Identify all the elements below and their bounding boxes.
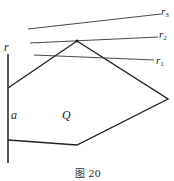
ray-r3 <box>28 14 161 29</box>
ray-r2 <box>30 37 158 43</box>
region-q-boundary <box>8 41 168 145</box>
label-r: r <box>4 40 9 55</box>
label-r2-sub: 2 <box>163 34 167 42</box>
figure-20: r a Q r3 r2 r1 图 20 <box>0 0 174 181</box>
figure-caption: 图 20 <box>75 165 101 180</box>
label-r3: r3 <box>161 5 169 19</box>
label-r1: r1 <box>156 54 164 68</box>
label-q: Q <box>62 108 71 123</box>
apex-point <box>76 40 79 43</box>
label-r3-sub: 3 <box>165 11 169 19</box>
label-r1-sub: 1 <box>160 60 164 68</box>
label-r2: r2 <box>159 28 167 42</box>
label-a: a <box>11 108 17 123</box>
diagram-lines <box>0 0 174 181</box>
